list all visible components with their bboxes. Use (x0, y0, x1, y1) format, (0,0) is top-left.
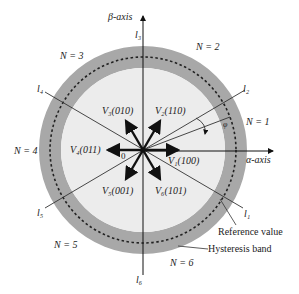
sector-n5: N = 5 (54, 240, 77, 250)
boundary-l6: l₆ (136, 275, 142, 285)
boundary-l5: l₅ (37, 208, 43, 218)
beta-axis-label: β-axis (108, 12, 132, 22)
sector-n6: N = 6 (170, 258, 193, 268)
sector-n2: N = 2 (196, 42, 219, 52)
sector-n4: N = 4 (14, 146, 37, 156)
alpha-axis-label: α-axis (246, 155, 271, 165)
boundary-l1: l₁ (244, 209, 250, 219)
origin-dot (141, 148, 146, 153)
boundary-l2: l₂ (243, 84, 249, 94)
sector-n1: N = 1 (246, 117, 269, 127)
boundary-l4: l₄ (37, 84, 43, 94)
hysteresis-pointer (178, 246, 208, 249)
vector-v6-label: V₆(101) (155, 186, 186, 196)
reference-value-label: Reference value (218, 227, 283, 237)
angle-label: φ (223, 121, 227, 129)
sector-n3: N = 3 (60, 51, 83, 61)
vector-v4-label: V₄(011) (70, 145, 101, 155)
origin-label: 0 (121, 152, 126, 161)
hysteresis-band-label: Hysteresis band (208, 244, 272, 254)
boundary-l3: l₃ (135, 30, 141, 40)
vector-v3-label: V₃(010) (102, 106, 133, 116)
vector-v1-label: V₁(100) (168, 156, 199, 166)
vector-v5-label: V₅(001) (102, 186, 133, 196)
vector-v2-label: V₂(110) (155, 106, 186, 116)
